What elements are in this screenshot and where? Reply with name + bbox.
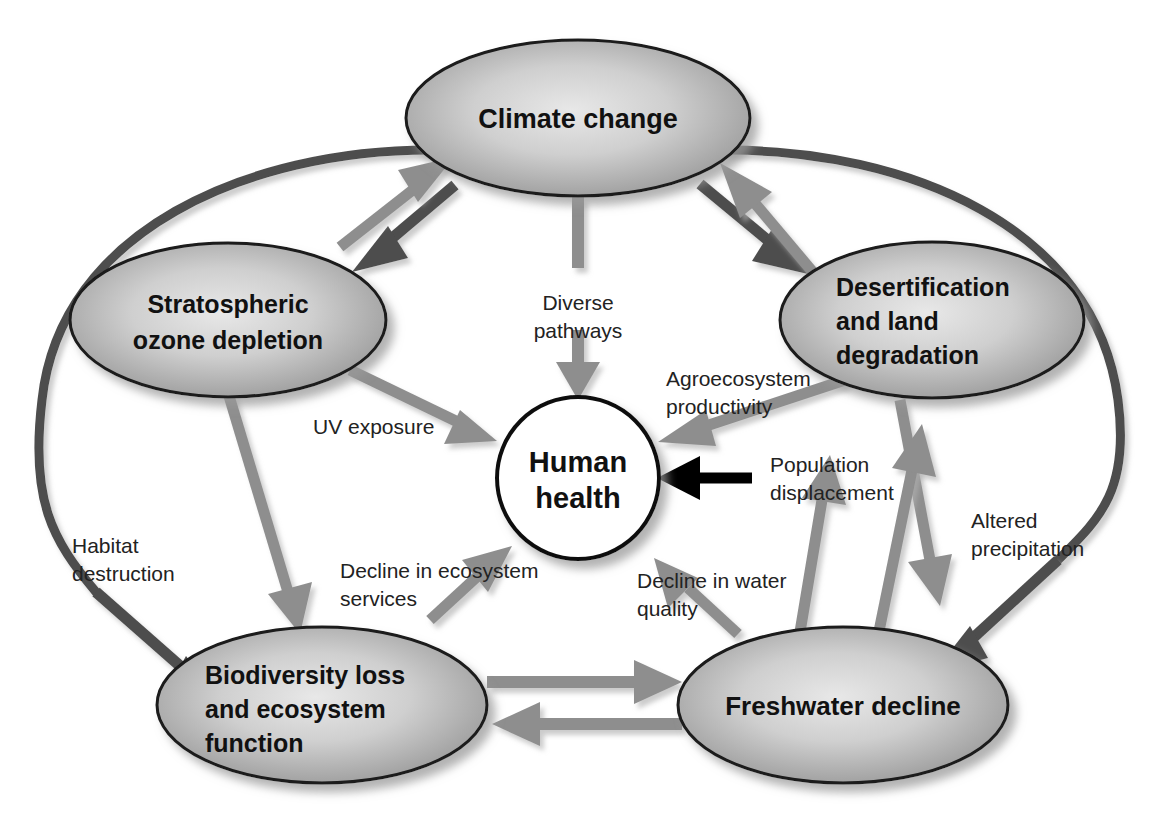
edge-biodiversity-to-freshwater [487, 660, 682, 704]
decline-ecosystem-services-line-1: Decline in ecosystem [340, 559, 538, 582]
edge-decline-in-ecosystem-services [430, 546, 512, 620]
climate-change-label: Climate change [478, 104, 678, 134]
human-health-label-line-1: Human [529, 446, 627, 478]
human-health-circle[interactable] [497, 397, 659, 559]
diverse-pathways-line-1: Diverse [542, 291, 613, 314]
decline-ecosystem-services-line-2: services [340, 587, 417, 610]
desertification-label-line-3: degradation [836, 341, 979, 369]
edge-label-uv-exposure: UV exposure [313, 415, 434, 438]
edge-freshwater-to-biodiversity [492, 702, 682, 746]
altered-precipitation-line-1: Altered [971, 509, 1038, 532]
desertification-label-line-1: Desertification [836, 273, 1010, 301]
human-health-label-line-2: health [535, 482, 620, 514]
stratospheric-ozone-depletion-ellipse[interactable] [70, 243, 386, 397]
biodiversity-label-line-3: function [205, 729, 304, 757]
stratospheric-ozone-depletion-label-line-1: Stratospheric [147, 290, 308, 318]
decline-water-quality-line-1: Decline in water [637, 569, 786, 592]
uv-exposure-line-1: UV exposure [313, 415, 434, 438]
population-displacement-line-1: Population [770, 453, 869, 476]
edge-label-diverse-pathways: Diverse pathways [534, 291, 623, 342]
agroecosystem-productivity-line-2: productivity [666, 395, 773, 418]
diverse-pathways-line-2: pathways [534, 319, 623, 342]
node-stratospheric-ozone-depletion[interactable]: Stratospheric ozone depletion [70, 243, 386, 397]
node-freshwater-decline[interactable]: Freshwater decline [678, 627, 1008, 783]
environment-health-diagram: Climate change Stratospheric ozone deple… [0, 0, 1157, 819]
stratospheric-ozone-depletion-label-line-2: ozone depletion [133, 326, 323, 354]
node-biodiversity-loss-and-ecosystem-function[interactable]: Biodiversity loss and ecosystem function [157, 627, 487, 783]
edge-ozone-to-biodiversity [229, 396, 312, 634]
habitat-destruction-line-1: Habitat [72, 534, 139, 557]
node-human-health[interactable]: Human health [497, 397, 659, 559]
freshwater-decline-label: Freshwater decline [725, 691, 961, 721]
edge-population-displacement [657, 456, 752, 500]
edge-label-habitat-destruction: Habitat destruction [72, 534, 175, 585]
node-climate-change[interactable]: Climate change [406, 40, 750, 196]
edge-label-agroecosystem-productivity: Agroecosystem productivity [666, 367, 811, 418]
altered-precipitation-line-2: precipitation [971, 537, 1084, 560]
habitat-destruction-line-2: destruction [72, 562, 175, 585]
diagram-canvas: Climate change Stratospheric ozone deple… [0, 0, 1157, 819]
decline-water-quality-line-2: quality [637, 597, 698, 620]
edge-label-altered-precipitation: Altered precipitation [971, 509, 1084, 560]
biodiversity-label-line-2: and ecosystem [205, 695, 386, 723]
agroecosystem-productivity-line-1: Agroecosystem [666, 367, 811, 390]
node-desertification-and-land-degradation[interactable]: Desertification and land degradation [780, 242, 1084, 398]
population-displacement-line-2: displacement [770, 481, 894, 504]
edge-label-decline-in-ecosystem-services: Decline in ecosystem services [340, 559, 538, 610]
desertification-label-line-2: and land [836, 307, 939, 335]
biodiversity-label-line-1: Biodiversity loss [205, 661, 405, 689]
